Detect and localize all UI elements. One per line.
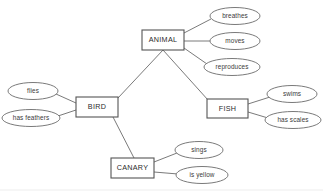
edge-animal-reproduces xyxy=(184,48,207,64)
edge-animal-fish xyxy=(163,50,208,100)
property-node-breathes[interactable]: breathes xyxy=(210,8,260,25)
property-label-has-feathers: has feathers xyxy=(13,114,49,121)
edge-canary-is-yellow xyxy=(154,172,178,174)
property-node-swims[interactable]: swims xyxy=(267,86,317,103)
property-label-reproduces: reproduces xyxy=(216,63,249,71)
concept-label-animal: ANIMAL xyxy=(149,35,178,44)
property-label-swims: swims xyxy=(283,90,301,97)
diagram-canvas: ANIMALBIRDFISHCANARYbreathesmovesreprodu… xyxy=(0,0,323,196)
property-node-has-feathers[interactable]: has feathers xyxy=(2,110,60,127)
edge-fish-swims xyxy=(248,97,270,104)
concept-node-canary[interactable]: CANARY xyxy=(111,158,154,178)
edge-bird-canary xyxy=(113,117,134,158)
edge-fish-has-scales xyxy=(248,112,268,118)
edge-animal-breathes xyxy=(184,19,211,33)
property-label-breathes: breathes xyxy=(222,12,248,19)
semantic-network-diagram: ANIMALBIRDFISHCANARYbreathesmovesreprodu… xyxy=(0,0,323,196)
property-node-moves[interactable]: moves xyxy=(210,33,260,50)
property-node-reproduces[interactable]: reproduces xyxy=(204,59,260,76)
concept-label-bird: BIRD xyxy=(88,102,106,111)
concept-node-fish[interactable]: FISH xyxy=(207,99,248,118)
property-node-sings[interactable]: sings xyxy=(175,142,223,159)
nodes-layer: ANIMALBIRDFISHCANARYbreathesmovesreprodu… xyxy=(2,8,321,184)
concept-label-fish: FISH xyxy=(219,104,237,113)
property-node-is-yellow[interactable]: is yellow xyxy=(176,167,228,184)
property-label-has-scales: has scales xyxy=(277,116,308,123)
concept-node-animal[interactable]: ANIMAL xyxy=(142,30,184,50)
concept-node-bird[interactable]: BIRD xyxy=(76,97,118,117)
property-label-moves: moves xyxy=(225,37,244,44)
property-node-has-scales[interactable]: has scales xyxy=(265,112,321,129)
property-label-sings: sings xyxy=(191,146,206,154)
property-label-flies: flies xyxy=(27,87,39,94)
property-node-flies[interactable]: flies xyxy=(8,83,58,100)
edge-bird-has-feathers xyxy=(58,110,76,116)
edge-animal-bird xyxy=(118,50,163,98)
property-label-is-yellow: is yellow xyxy=(189,171,214,179)
concept-label-canary: CANARY xyxy=(117,163,149,172)
edge-bird-flies xyxy=(56,94,76,103)
edge-canary-sings xyxy=(154,153,177,162)
